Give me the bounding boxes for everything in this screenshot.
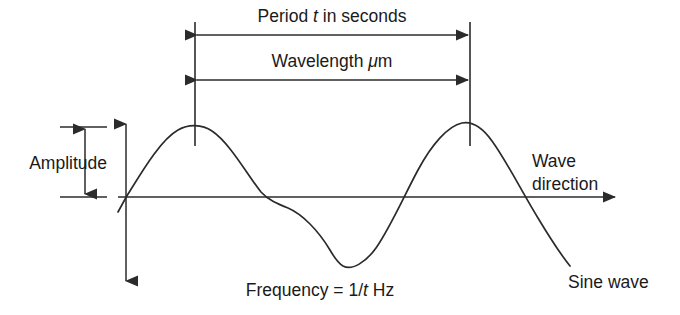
- amplitude-label: Amplitude: [29, 153, 107, 173]
- wavelength-label: Wavelength μm: [272, 51, 393, 71]
- period-label-suffix: in seconds: [318, 6, 407, 26]
- sine-wave-curve: [118, 123, 570, 268]
- wave-diagram-container: Period t in seconds Wavelength μm Amplit…: [0, 0, 680, 315]
- period-label: Period t in seconds: [258, 6, 407, 26]
- frequency-label-prefix: Frequency = 1/: [246, 280, 363, 300]
- wave-direction-label-line2: direction: [532, 174, 598, 194]
- wavelength-label-symbol: μ: [367, 51, 378, 71]
- sine-wave-diagram: Period t in seconds Wavelength μm Amplit…: [0, 0, 680, 315]
- frequency-label: Frequency = 1/t Hz: [246, 280, 394, 300]
- wavelength-label-prefix: Wavelength: [272, 51, 369, 71]
- frequency-label-suffix: Hz: [368, 280, 394, 300]
- wave-direction-label-line1: Wave: [532, 151, 576, 171]
- period-label-prefix: Period: [258, 6, 313, 26]
- wavelength-label-suffix: m: [378, 51, 393, 71]
- sine-wave-label: Sine wave: [568, 272, 649, 292]
